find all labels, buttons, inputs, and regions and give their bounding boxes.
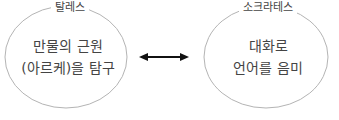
right-title: 소크라테스	[239, 1, 297, 14]
bidirectional-arrow-icon	[139, 53, 189, 61]
left-title: 탈레스	[51, 1, 89, 14]
right-line-2: 언어를 음미	[233, 57, 302, 79]
right-line-1: 대화로	[249, 35, 288, 57]
left-line-2: (아르케)을 탐구	[21, 57, 114, 79]
left-line-1: 만물의 근원	[33, 35, 102, 57]
